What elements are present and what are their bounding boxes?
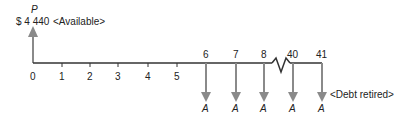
payment-symbol: A [202, 104, 209, 114]
debt-retired-note: <Debt retired> [330, 90, 394, 100]
tick-label: 4 [145, 72, 151, 82]
period-label: 40 [287, 50, 298, 60]
present-value-symbol: P [31, 5, 38, 15]
tick-label: 1 [59, 72, 65, 82]
payment-symbol: A [318, 104, 325, 114]
tick-label: 3 [115, 72, 121, 82]
tick-label: 0 [30, 72, 36, 82]
payment-symbol: A [260, 104, 267, 114]
tick-label: 2 [87, 72, 93, 82]
payment-symbol: A [289, 104, 296, 114]
payment-symbol: A [232, 104, 239, 114]
period-label: 8 [261, 50, 267, 60]
period-label: 41 [316, 50, 327, 60]
tick-label: 5 [174, 72, 180, 82]
present-value-amount: $ 4 440 [16, 17, 49, 27]
period-label: 6 [203, 50, 209, 60]
period-label: 7 [233, 50, 239, 60]
available-note: <Available> [53, 17, 105, 27]
